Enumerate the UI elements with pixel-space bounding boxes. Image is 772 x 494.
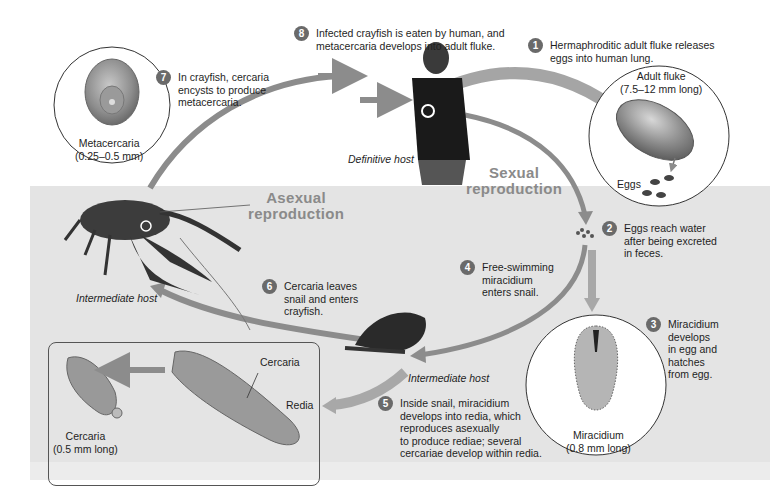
step-text: Hermaphroditic adult fluke releases eggs… [550, 39, 715, 64]
adult-fluke-label: Adult fluke (7.5–12 mm long) [620, 70, 702, 95]
sexual-reproduction-label: Sexual reproduction [466, 165, 562, 197]
crayfish-intermediate-host-label: Intermediate host [76, 292, 157, 305]
step-badge: 8 [294, 26, 309, 41]
step-badge: 7 [156, 70, 171, 85]
definitive-host-label: Definitive host [348, 153, 414, 166]
step-text: Inside snail, miracidium develops into r… [400, 397, 542, 460]
asexual-reproduction-label: Asexual reproduction [248, 190, 344, 222]
step-badge: 1 [528, 38, 543, 53]
snail-intermediate-host-label: Intermediate host [408, 372, 489, 385]
step-badge: 3 [646, 317, 661, 332]
step-badge: 4 [460, 260, 475, 275]
metacercaria-label: Metacercaria (0.25–0.5 mm) [75, 137, 143, 162]
arrow-snail-to-redia [332, 372, 405, 405]
miracidium-label: Miracidium (0.8 mm long) [566, 429, 631, 454]
step-badge: 2 [602, 221, 617, 236]
step-text: Free-swimming miracidium enters snail. [482, 261, 554, 299]
step-text: Infected crayfish is eaten by human, and… [316, 27, 505, 52]
step-badge: 6 [262, 279, 277, 294]
redia-label: Redia [286, 399, 313, 412]
eggs-label: Eggs [617, 178, 641, 191]
step-text: Miracidium develops in egg and hatches f… [668, 318, 719, 381]
step-text: Cercaria leaves snail and enters crayfis… [284, 280, 358, 318]
step-text: In crayfish, cercaria encysts to produce… [178, 71, 269, 109]
step-text: Eggs reach water after being excreted in… [624, 222, 717, 260]
cercaria-size-label: Cercaria (0.5 mm long) [53, 430, 118, 455]
step-badge: 5 [378, 396, 393, 411]
cercaria-pointer-label: Cercaria [260, 356, 300, 369]
